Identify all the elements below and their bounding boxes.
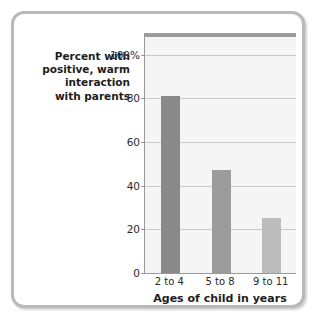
x-axis-title: Ages of child in years (144, 292, 296, 305)
y-axis-tick-label: 100% (80, 49, 140, 61)
bar (212, 170, 231, 273)
y-axis-tick-label: 20 (80, 223, 140, 235)
y-axis-tick-label: 0 (80, 267, 140, 279)
x-axis-tick-label: 5 to 8 (205, 276, 234, 287)
y-axis-tick-mark (141, 186, 145, 187)
plot-top-band (145, 33, 296, 37)
y-axis-tick-mark (141, 55, 145, 56)
y-axis-tick-mark (141, 142, 145, 143)
bar (161, 96, 180, 273)
x-axis-tick-label: 2 to 4 (155, 276, 184, 287)
y-axis-tick-label: 80 (80, 92, 140, 104)
y-axis-title-line-2: positive, warm (26, 63, 130, 76)
y-axis-tick-label: 60 (80, 136, 140, 148)
y-axis-title-line-3: interaction (26, 76, 130, 89)
bar (262, 218, 281, 273)
figure-container: Percent with positive, warm interaction … (0, 0, 322, 329)
y-axis-tick-mark (141, 273, 145, 274)
x-axis-line (145, 273, 296, 274)
y-axis-tick-mark (141, 229, 145, 230)
gridline (145, 55, 296, 56)
y-axis-tick-mark (141, 98, 145, 99)
plot-area (144, 33, 296, 273)
x-axis-tick-label: 9 to 11 (253, 276, 288, 287)
y-axis-tick-label: 40 (80, 180, 140, 192)
